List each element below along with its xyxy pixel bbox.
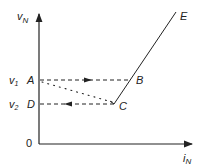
path-c-e: [114, 12, 176, 104]
point-a-label: A: [26, 74, 34, 86]
arrow-left-icon: [64, 102, 72, 107]
point-e-label: E: [180, 10, 188, 22]
x-axis-label: iN: [183, 152, 191, 166]
v2-label: v2: [9, 98, 19, 111]
characteristic-diagram: vN iN 0 v1 v2 A D B C E: [0, 0, 205, 168]
v1-label: v1: [9, 74, 19, 87]
path-a-c: [42, 82, 112, 102]
point-c-label: C: [119, 100, 127, 112]
y-axis-label: vN: [17, 10, 29, 25]
origin-label: 0: [26, 137, 32, 149]
point-b-label: B: [136, 74, 143, 86]
point-d-label: D: [27, 98, 35, 110]
arrow-right-icon: [84, 78, 92, 83]
